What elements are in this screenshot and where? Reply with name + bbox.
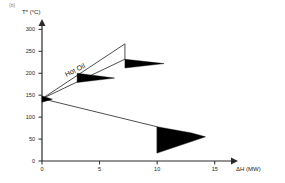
axes	[42, 25, 232, 161]
cold-utility-wedge	[157, 127, 205, 153]
hot-oil-upper-wedge	[125, 59, 164, 68]
hot-oil-lower-wedge	[77, 73, 114, 82]
axis-ticks	[39, 29, 215, 164]
x-axis-tick-label: 10	[150, 166, 164, 172]
grand-composite-curve-figure: (b) T* (°C) ΔH (MW) 050100150200250300 0…	[0, 0, 285, 183]
grand-composite-lower	[42, 99, 157, 127]
y-axis-tick-label: 250	[19, 48, 35, 54]
x-axis-tick-label: 15	[208, 166, 222, 172]
grand-composite-upper	[42, 44, 125, 99]
x-axis-title: ΔH (MW)	[236, 166, 261, 172]
panel-label: (b)	[9, 2, 15, 9]
y-axis-tick-label: 100	[19, 114, 35, 120]
y-axis-tick-label: 300	[19, 26, 35, 32]
y-axis-title: T* (°C)	[22, 9, 40, 15]
y-axis-tick-label: 200	[19, 70, 35, 76]
plot-canvas	[0, 0, 285, 183]
y-axis-tick-label: 50	[19, 136, 35, 142]
y-axis-tick-label: 0	[19, 158, 35, 164]
data-series	[42, 44, 157, 153]
x-axis-tick-label: 5	[93, 166, 107, 172]
x-axis-tick-label: 0	[35, 166, 49, 172]
y-axis-tick-label: 150	[19, 92, 35, 98]
